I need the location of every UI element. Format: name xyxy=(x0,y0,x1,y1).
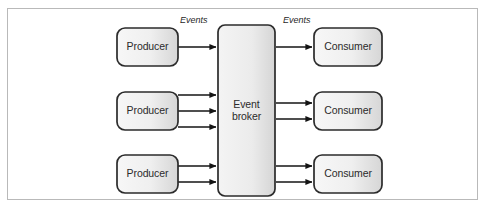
node-consumer-middle xyxy=(314,92,382,130)
node-producer-middle xyxy=(117,92,178,130)
node-producer-bottom xyxy=(117,155,178,193)
figure-container: Producer Producer Producer Event broker … xyxy=(0,0,492,212)
node-consumer-top xyxy=(314,28,382,66)
edge-label-events-out: Events xyxy=(283,15,311,25)
node-consumer-bottom xyxy=(314,155,382,193)
edge-group-producer-to-broker xyxy=(178,47,216,182)
node-producer-top xyxy=(117,28,178,66)
edge-group-broker-to-consumer xyxy=(276,47,312,182)
edge-label-events-in: Events xyxy=(180,15,208,25)
node-event-broker xyxy=(218,25,275,196)
diagram-canvas xyxy=(0,0,492,212)
